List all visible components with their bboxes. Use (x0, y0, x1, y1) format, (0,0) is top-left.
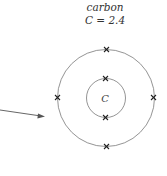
nucleus-symbol: C (101, 93, 109, 104)
pointer-arrow (0, 110, 45, 119)
bohr-diagram: C (0, 0, 167, 176)
electron-x-icon (151, 95, 156, 100)
